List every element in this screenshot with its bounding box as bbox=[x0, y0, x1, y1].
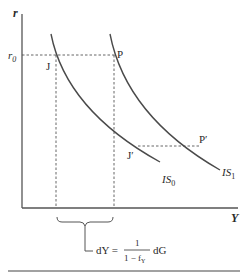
formula-rhs: dG bbox=[153, 244, 167, 256]
y-axis-label: r bbox=[13, 6, 18, 20]
is-curve-shift-diagram: r Y r0 J P J′ P′ IS0 IS1 dY = 1 1 − fY d… bbox=[0, 0, 246, 273]
dy-brace bbox=[57, 217, 113, 226]
formula-lhs: dY = bbox=[96, 244, 118, 256]
point-j-label: J bbox=[46, 60, 51, 72]
point-p-label: P bbox=[117, 48, 123, 60]
point-jprime-label: J′ bbox=[127, 149, 134, 161]
is0-label: IS0 bbox=[161, 173, 175, 188]
is0-curve bbox=[51, 34, 160, 162]
formula-numerator: 1 bbox=[135, 238, 140, 248]
formula-denominator: 1 − fY bbox=[124, 253, 146, 264]
r0-label: r0 bbox=[8, 49, 16, 64]
is1-label: IS1 bbox=[221, 166, 235, 181]
point-pprime-label: P′ bbox=[199, 133, 208, 145]
x-axis-label: Y bbox=[231, 211, 240, 225]
formula-leader-line bbox=[85, 226, 93, 251]
